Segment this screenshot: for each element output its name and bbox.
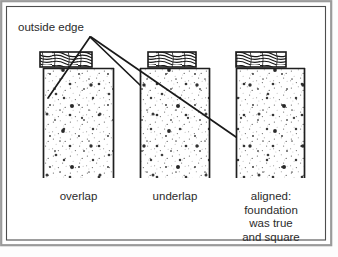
caption-underlap: underlap bbox=[153, 190, 198, 202]
caption-overlap: overlap bbox=[60, 190, 98, 202]
caption-aligned-line1: aligned: bbox=[251, 190, 291, 202]
sill-plate-underlap bbox=[148, 52, 196, 67]
foundation-block-aligned bbox=[224, 50, 318, 188]
sill-plate-alignment-diagram: overlap underlap bbox=[0, 0, 338, 257]
foundation-block-overlap bbox=[43, 68, 114, 178]
caption-aligned-line4: and square bbox=[242, 231, 300, 243]
caption-aligned-line2: foundation bbox=[244, 204, 298, 216]
sill-plate-aligned bbox=[236, 52, 286, 67]
foundation-block-underlap bbox=[129, 58, 221, 188]
caption-aligned-line3: was true bbox=[248, 217, 292, 229]
sill-plate-overlap bbox=[40, 52, 92, 67]
callout-label-outside-edge: outside edge bbox=[18, 21, 84, 33]
figure-container: overlap underlap bbox=[0, 0, 338, 257]
